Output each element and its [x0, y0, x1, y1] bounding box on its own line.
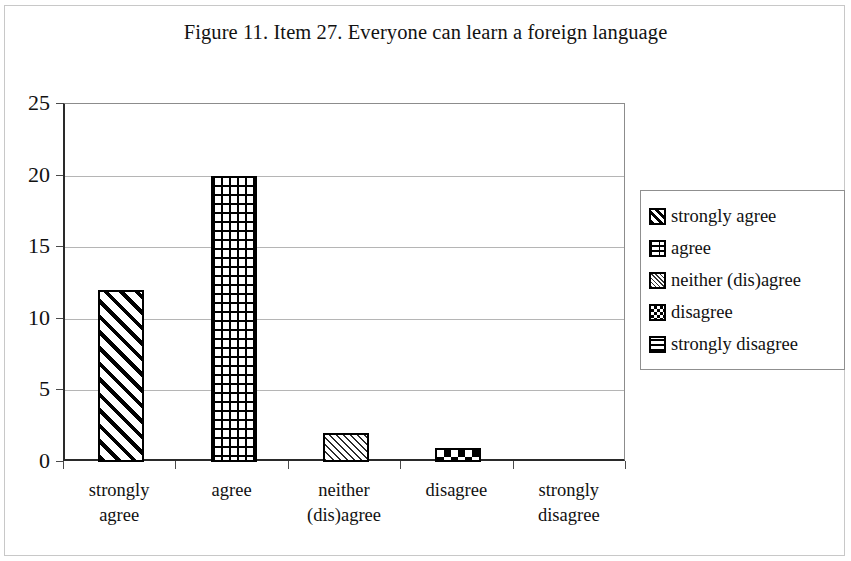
x-category-label: stronglydisagree	[513, 478, 625, 528]
plot-area	[63, 103, 625, 461]
x-category-label-line: agree	[176, 478, 288, 503]
x-category-label: agree	[176, 478, 288, 503]
x-category-label-line: (dis)agree	[288, 503, 400, 528]
x-tick-mark	[400, 461, 401, 469]
y-tick-mark	[56, 461, 63, 462]
x-category-label-line: strongly	[513, 478, 625, 503]
legend-swatch-icon	[649, 240, 666, 257]
legend: strongly agreeagreeneither (dis)agreedis…	[640, 190, 845, 370]
y-tick-mark	[56, 246, 63, 247]
bar-agree	[211, 176, 257, 462]
y-tick-mark	[56, 103, 63, 104]
legend-swatch-icon	[649, 208, 666, 225]
x-category-label: disagree	[400, 478, 512, 503]
x-category-label: neither(dis)agree	[288, 478, 400, 528]
bar-neither-dis-agree	[323, 433, 369, 462]
x-category-label-line: neither	[288, 478, 400, 503]
legend-item-agree: agree	[649, 232, 838, 264]
legend-swatch-icon	[649, 336, 666, 353]
legend-item-strongly-agree: strongly agree	[649, 200, 838, 232]
x-tick-mark	[513, 461, 514, 469]
legend-item-neither-dis-agree: neither (dis)agree	[649, 264, 838, 296]
x-category-label-line: strongly	[63, 478, 175, 503]
y-tick-label: 10	[6, 307, 50, 329]
x-category-label-line: agree	[63, 503, 175, 528]
bar-strongly-agree	[98, 290, 144, 462]
legend-swatch-icon	[649, 272, 666, 289]
y-tick-label: 15	[6, 235, 50, 257]
y-tick-label: 0	[6, 450, 50, 472]
gridline	[65, 319, 624, 320]
gridline	[65, 390, 624, 391]
y-tick-mark	[56, 389, 63, 390]
x-tick-mark	[288, 461, 289, 469]
chart-title: Figure 11. Item 27. Everyone can learn a…	[0, 21, 851, 44]
legend-item-label: strongly disagree	[671, 335, 798, 354]
gridline	[65, 247, 624, 248]
y-tick-label: 20	[6, 164, 50, 186]
gridline	[65, 176, 624, 177]
x-category-label-line: disagree	[400, 478, 512, 503]
legend-swatch-icon	[649, 304, 666, 321]
x-tick-mark	[63, 461, 64, 469]
legend-item-strongly-disagree: strongly disagree	[649, 328, 838, 360]
y-tick-label: 25	[6, 92, 50, 114]
y-tick-mark	[56, 175, 63, 176]
legend-item-label: neither (dis)agree	[671, 271, 801, 290]
x-category-label-line: disagree	[513, 503, 625, 528]
legend-item-disagree: disagree	[649, 296, 838, 328]
x-tick-mark	[175, 461, 176, 469]
y-tick-label: 5	[6, 378, 50, 400]
figure-container: Figure 11. Item 27. Everyone can learn a…	[0, 0, 851, 561]
x-tick-mark	[625, 461, 626, 469]
y-tick-mark	[56, 318, 63, 319]
legend-item-label: agree	[671, 239, 711, 258]
x-category-label: stronglyagree	[63, 478, 175, 528]
legend-item-label: strongly agree	[671, 207, 776, 226]
legend-item-label: disagree	[671, 303, 733, 322]
bar-disagree	[435, 448, 481, 462]
